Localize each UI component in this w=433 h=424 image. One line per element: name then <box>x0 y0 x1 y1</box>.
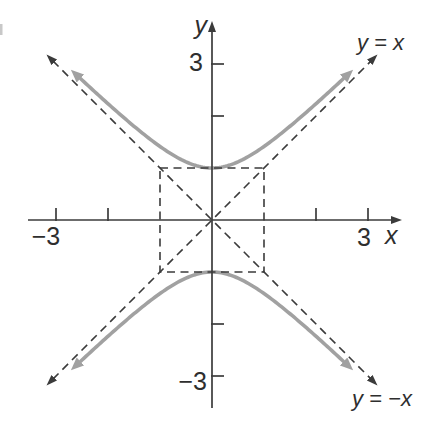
x-tick-label-neg3: −3 <box>32 222 61 250</box>
y-tick-label-neg3: −3 <box>178 367 207 395</box>
plot-canvas: y x 3 −3 −3 3 y = x y = −x <box>0 0 433 424</box>
y-tick-label-3: 3 <box>189 48 203 76</box>
x-axis-label: x <box>384 221 399 249</box>
x-tick-label-3: 3 <box>357 223 371 251</box>
scan-artifact <box>0 24 3 35</box>
hyperbola-asymptotes-figure: y x 3 −3 −3 3 y = x y = −x <box>0 0 433 424</box>
asymptote-pos-label: y = x <box>355 30 405 55</box>
y-axis-label: y <box>193 11 209 39</box>
asymptote-neg-label: y = −x <box>350 386 413 411</box>
